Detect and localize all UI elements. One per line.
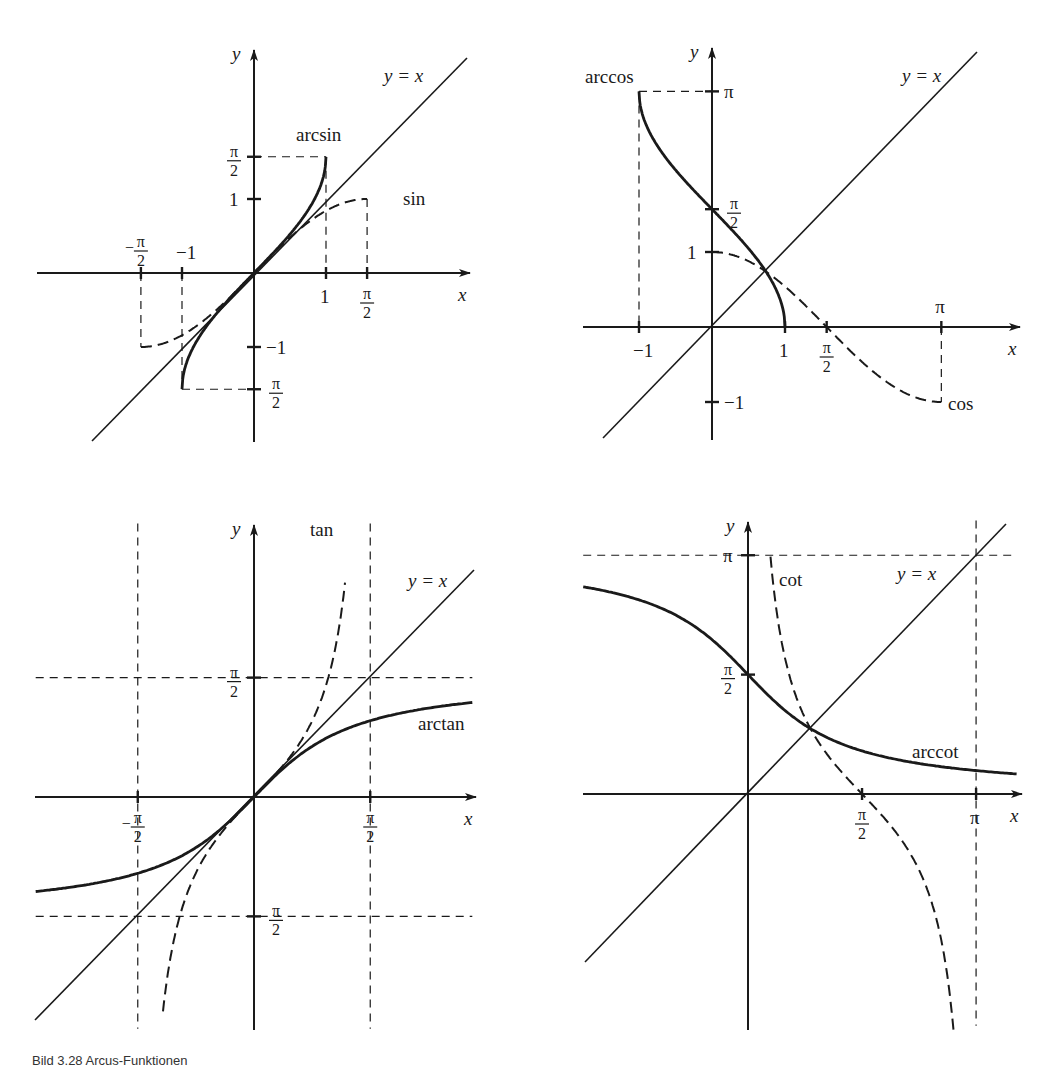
y-tick-label: π xyxy=(724,81,734,102)
svg-text:π: π xyxy=(724,661,732,678)
x-tick-label: −1 xyxy=(633,340,653,361)
svg-text:2: 2 xyxy=(137,252,145,269)
y-axis-label: y xyxy=(724,515,735,536)
x-tick-label: 1 xyxy=(779,340,789,361)
cot-label: cot xyxy=(779,569,803,590)
identity-label: y = x xyxy=(406,570,448,591)
arccos-label: arccos xyxy=(585,66,634,87)
svg-text:π: π xyxy=(366,809,374,826)
y-tick-label: π2 xyxy=(721,661,735,697)
svg-text:−: − xyxy=(122,815,131,832)
x-tick-label: π xyxy=(935,296,945,317)
svg-text:2: 2 xyxy=(230,162,238,179)
x-tick-label: π2 xyxy=(820,339,834,375)
svg-text:π: π xyxy=(137,233,145,250)
x-tick-label: π2 xyxy=(360,285,374,321)
y-tick-label: π2 xyxy=(227,664,241,700)
y-tick-label: π xyxy=(723,545,733,566)
y-axis-label: y xyxy=(688,41,699,62)
sin-label: sin xyxy=(403,188,426,209)
svg-text:2: 2 xyxy=(366,828,374,845)
x-axis-label: x xyxy=(457,284,467,305)
y-tick-label: π2 xyxy=(269,375,283,411)
arcus-functions-figure: xyy = x−π2−11π2π21−1π2arcsinsin xyy = x−… xyxy=(0,0,1056,1065)
arccot-label: arccot xyxy=(912,741,959,762)
svg-text:2: 2 xyxy=(272,394,280,411)
x-axis-label: x xyxy=(1009,805,1019,826)
panel-arctan: xyy = x−π2π2π2π2arctantan xyxy=(35,518,476,1030)
x-axis-label: x xyxy=(1007,338,1017,359)
figure-caption: Bild 3.28 Arcus-Funktionen xyxy=(32,1053,187,1065)
svg-text:π: π xyxy=(858,806,866,823)
x-tick-label: −π2 xyxy=(125,233,148,269)
x-tick-label: −1 xyxy=(176,242,196,263)
y-tick-label: −1 xyxy=(266,337,286,358)
svg-text:−: − xyxy=(125,239,134,256)
x-axis-label: x xyxy=(463,808,473,829)
svg-text:2: 2 xyxy=(823,358,831,375)
svg-text:π: π xyxy=(230,143,238,160)
svg-text:2: 2 xyxy=(134,828,142,845)
panel-arccos: xyy = x−11π2πππ21−1arccoscos xyxy=(583,41,1020,440)
svg-text:π: π xyxy=(272,902,280,919)
svg-text:π: π xyxy=(134,809,142,826)
y-tick-label: π2 xyxy=(269,902,283,938)
svg-text:π: π xyxy=(730,195,738,212)
svg-text:2: 2 xyxy=(230,683,238,700)
svg-text:π: π xyxy=(230,664,238,681)
y-tick-label: 1 xyxy=(229,189,239,210)
svg-text:2: 2 xyxy=(272,921,280,938)
y-axis-label: y xyxy=(230,43,241,64)
cos-label: cos xyxy=(948,393,973,414)
identity-label: y = x xyxy=(382,65,424,86)
y-axis-label: y xyxy=(230,518,241,539)
svg-text:2: 2 xyxy=(363,304,371,321)
identity-label: y = x xyxy=(900,65,942,86)
y-tick-label: −1 xyxy=(724,392,744,413)
svg-text:2: 2 xyxy=(858,825,866,842)
svg-text:π: π xyxy=(823,339,831,356)
tan-label: tan xyxy=(310,519,334,540)
identity-label: y = x xyxy=(895,563,937,584)
panel-arcsin: xyy = x−π2−11π2π21−1π2arcsinsin xyxy=(37,43,470,442)
y-tick-label: 1 xyxy=(687,242,697,263)
x-tick-label: π2 xyxy=(855,806,869,842)
x-tick-label: π xyxy=(970,807,980,828)
y-tick-label: π2 xyxy=(227,143,241,179)
svg-text:π: π xyxy=(363,285,371,302)
identity-line xyxy=(603,52,977,438)
panel-arccot: xyy = xπ2πππ2arccotcot xyxy=(583,515,1022,1030)
x-tick-label: −π2 xyxy=(122,809,145,845)
x-tick-label: 1 xyxy=(320,286,330,307)
x-tick-label: π2 xyxy=(363,809,377,845)
arcsin-label: arcsin xyxy=(296,124,342,145)
svg-text:2: 2 xyxy=(724,680,732,697)
svg-text:π: π xyxy=(272,375,280,392)
arctan-label: arctan xyxy=(418,713,465,734)
